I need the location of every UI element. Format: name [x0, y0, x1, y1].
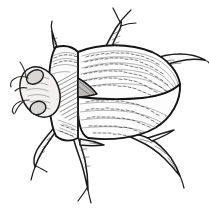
- beetle-illustration: Beetle line drawing: [0, 0, 209, 209]
- beetle-drawing-svg: [0, 0, 209, 209]
